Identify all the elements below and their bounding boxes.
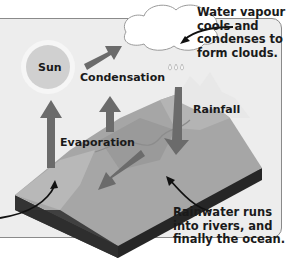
clouds-callout-line-3: condenses to	[197, 33, 285, 47]
clouds-callout-line-1: Water vapour	[197, 6, 285, 20]
sun-label: Sun	[38, 61, 62, 74]
runoff-callout: Rainwater runs into rivers, and finally …	[173, 206, 285, 247]
clouds-callout: Water vapour cools and condenses to form…	[197, 6, 285, 60]
clouds-callout-line-2: cools and	[197, 20, 285, 34]
runoff-callout-line-1: Rainwater runs	[173, 206, 285, 220]
clouds-callout-line-4: form clouds.	[197, 47, 285, 61]
condensation-arrow-icon	[84, 46, 122, 70]
raindrop-icons	[169, 64, 184, 70]
runoff-callout-line-2: into rivers, and	[173, 220, 285, 234]
runoff-callout-line-3: finally the ocean.	[173, 233, 285, 247]
rainfall-label: Rainfall	[193, 103, 240, 116]
water-cycle-diagram: Sun Condensation Evaporation Rainfall Wa…	[0, 0, 290, 263]
evaporation-label: Evaporation	[60, 136, 135, 149]
evaporation-arrow-left-icon	[40, 100, 62, 168]
condensation-label: Condensation	[80, 71, 165, 84]
